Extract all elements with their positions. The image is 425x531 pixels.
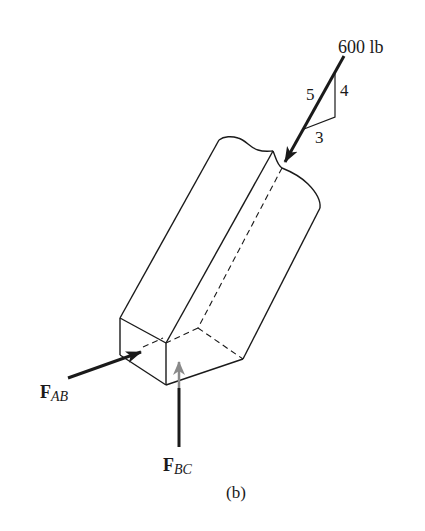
free-body-diagram xyxy=(0,0,425,531)
block-right-edge xyxy=(243,208,320,359)
hidden-lines xyxy=(143,168,282,359)
force-ab-arrow-icon xyxy=(68,352,141,378)
slope-hypotenuse-label: 5 xyxy=(306,86,315,103)
member-block xyxy=(120,137,320,385)
hidden-long-edge xyxy=(198,168,282,328)
front-face-bottom-edge xyxy=(120,355,166,385)
front-face-top-edge xyxy=(120,318,166,343)
block-top-break-right xyxy=(273,151,320,208)
block-top-break-left xyxy=(219,137,273,152)
figure-caption: (b) xyxy=(226,484,246,501)
force-ab-label: FAB xyxy=(40,383,68,401)
load-label: 600 lb xyxy=(338,38,384,56)
force-bc-label: FBC xyxy=(163,456,192,474)
block-ridge-edge xyxy=(166,151,273,343)
force-bc-subscript: BC xyxy=(174,462,192,477)
hidden-edge-to-right xyxy=(198,328,243,359)
slope-vertical-label: 4 xyxy=(340,82,349,99)
bottom-right-edge xyxy=(166,359,243,385)
block-left-edge xyxy=(120,140,219,318)
force-bc-symbol: F xyxy=(163,455,174,475)
slope-horizontal-label: 3 xyxy=(315,129,324,146)
force-ab-subscript: AB xyxy=(51,389,68,404)
force-ab-symbol: F xyxy=(40,382,51,402)
